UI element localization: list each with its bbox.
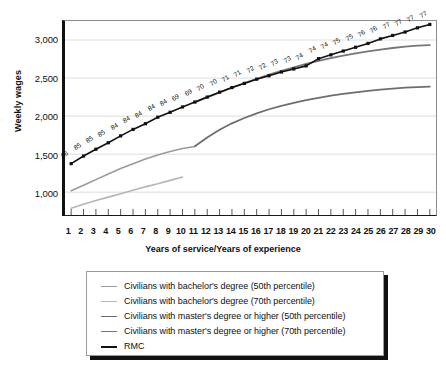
legend-swatch-icon [101, 301, 117, 302]
y-tick-label: 1,000 [12, 187, 58, 198]
x-tick-label: 6 [128, 226, 133, 236]
legend-item-3[interactable]: Civilians with master's degree or higher… [87, 324, 383, 339]
data-point [193, 100, 196, 103]
y-tick-label: 2,500 [12, 72, 58, 83]
x-tick-label: 5 [116, 226, 121, 236]
x-tick-label: 28 [401, 226, 411, 236]
data-point [206, 95, 209, 98]
x-tick-label: 26 [376, 226, 386, 236]
data-point-label: 77 [418, 10, 428, 20]
x-axis-title: Years of service/Years of experience [0, 244, 446, 254]
data-point [428, 23, 431, 26]
legend-label: RMC [124, 342, 144, 351]
plot-inner: 8685858584848484846969707071717272737374… [65, 21, 436, 215]
x-tick-label: 17 [263, 226, 273, 236]
legend-label: Civilians with bachelor's degree (50th p… [124, 282, 315, 291]
x-tick-label: 13 [213, 226, 223, 236]
data-point [255, 78, 258, 81]
series-line-4 [71, 24, 430, 163]
x-tick-label: 20 [301, 226, 311, 236]
legend-label: Civilians with master's degree or higher… [124, 312, 345, 321]
legend-label: Civilians with bachelor's degree (70th p… [124, 297, 315, 306]
data-point [243, 82, 246, 85]
chart-page: Weekly wages 1,0001,5002,0002,5003,000 8… [0, 0, 446, 367]
x-tick-label: 7 [141, 226, 146, 236]
data-point [379, 37, 382, 40]
data-point [70, 162, 73, 165]
x-tick-label: 15 [238, 226, 248, 236]
legend-item-0[interactable]: Civilians with bachelor's degree (50th p… [87, 279, 383, 294]
data-point [305, 64, 308, 67]
y-axis-tick-labels: 1,0001,5002,0002,5003,000 [0, 20, 58, 216]
x-tick-label: 12 [201, 226, 211, 236]
data-point [329, 53, 332, 56]
chart-container: Weekly wages 1,0001,5002,0002,5003,000 8… [0, 0, 446, 262]
x-tick-label: 21 [313, 226, 323, 236]
legend-swatch-icon [101, 346, 117, 348]
data-point [181, 105, 184, 108]
x-tick-label: 24 [351, 226, 361, 236]
data-point [169, 111, 172, 114]
data-point [403, 30, 406, 33]
x-tick-label: 2 [78, 226, 83, 236]
data-point [267, 74, 270, 77]
data-point [107, 141, 110, 144]
data-point [354, 46, 357, 49]
data-point [144, 122, 147, 125]
chart-legend: Civilians with bachelor's degree (50th p… [86, 271, 384, 356]
data-point [230, 86, 233, 89]
x-tick-label: 16 [251, 226, 261, 236]
x-tick-label: 25 [363, 226, 373, 236]
data-point [218, 91, 221, 94]
legend-swatch-icon [101, 286, 117, 287]
x-tick-label: 4 [103, 226, 108, 236]
legend-item-4[interactable]: RMC [87, 339, 383, 354]
data-point [156, 116, 159, 119]
legend-item-2[interactable]: Civilians with master's degree or higher… [87, 309, 383, 324]
data-point [317, 57, 320, 60]
plot-area: 8685858584848484846969707071717272737374… [62, 20, 437, 216]
legend-swatch-icon [101, 331, 117, 332]
data-point [391, 34, 394, 37]
data-point [119, 134, 122, 137]
data-point [416, 26, 419, 29]
x-tick-label: 19 [288, 226, 298, 236]
data-point [280, 70, 283, 73]
y-tick-label: 3,000 [12, 34, 58, 45]
y-tick-label: 2,000 [12, 111, 58, 122]
data-point [342, 49, 345, 52]
legend-label: Civilians with master's degree or higher… [124, 327, 345, 336]
data-point [94, 148, 97, 151]
data-point [292, 67, 295, 70]
data-point [82, 154, 85, 157]
x-tick-label: 11 [189, 226, 198, 236]
x-tick-label: 8 [153, 226, 158, 236]
x-tick-label: 27 [388, 226, 398, 236]
x-tick-label: 10 [176, 226, 186, 236]
x-tick-label: 18 [276, 226, 286, 236]
x-tick-label: 22 [326, 226, 336, 236]
x-tick-label: 3 [91, 226, 96, 236]
x-tick-label: 29 [413, 226, 423, 236]
data-point [366, 42, 369, 45]
legend-swatch-icon [101, 316, 117, 317]
x-tick-label: 23 [338, 226, 348, 236]
x-tick-label: 30 [426, 226, 436, 236]
x-axis-tick-labels: 1234567891011121314151617181920212223242… [62, 226, 437, 240]
x-tick-label: 14 [226, 226, 236, 236]
y-tick-label: 1,500 [12, 149, 58, 160]
legend-item-1[interactable]: Civilians with bachelor's degree (70th p… [87, 294, 383, 309]
series-line-3 [195, 45, 430, 102]
x-tick-label: 9 [166, 226, 171, 236]
x-tick-label: 1 [66, 226, 71, 236]
data-point [131, 128, 134, 131]
